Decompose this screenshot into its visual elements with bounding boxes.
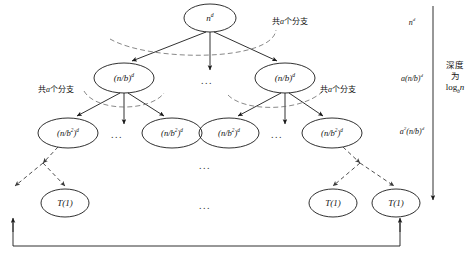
branch-annotation-left: 共a个分支	[38, 83, 74, 94]
edge-l3-1-leafright	[43, 163, 65, 186]
edges-root-to-level2	[132, 32, 277, 70]
ellipsis-level3-right: ...	[271, 129, 283, 140]
node-level3-1	[38, 118, 98, 148]
node-ellipses	[38, 4, 420, 217]
branch-annotation-right: 共a个分支	[320, 83, 356, 94]
branch-curves	[84, 30, 322, 107]
node-root	[184, 4, 236, 32]
edge-l2right-c1	[238, 93, 281, 116]
edge-l2left-c1	[77, 93, 120, 116]
ellipsis-level2: ...	[201, 75, 213, 86]
ellipsis-middle-lower: ...	[199, 200, 211, 211]
edge-l3-1-leafleft	[15, 163, 43, 186]
edge-l2right-c3	[289, 93, 323, 116]
depth-line-1: 深度	[446, 60, 465, 71]
node-level3-3	[199, 118, 259, 148]
ellipsis-level3-left: ...	[111, 129, 123, 140]
edge-l3-4-leafleft	[333, 163, 360, 186]
edge-root-right	[214, 32, 277, 61]
level-cost-1: a(n/b)d	[401, 74, 423, 83]
depth-annotation: 深度 为 logbn	[446, 60, 465, 93]
depth-math-label: logbn	[446, 82, 465, 93]
edge-l2left-c3	[128, 93, 164, 116]
edge-l3-1-down	[43, 147, 58, 163]
level-cost-2: a2(n/b)d	[400, 127, 425, 136]
node-level3-2	[142, 118, 202, 148]
edge-l3-4-leafright	[360, 163, 394, 186]
recursion-tree-figure: nd (n/b)d (n/b)d (n/b2)d (n/b2)d (n/b2)d…	[0, 0, 472, 254]
branch-curve-root	[110, 30, 276, 55]
node-leaf-3	[372, 189, 420, 217]
bottom-bracket	[13, 218, 400, 246]
node-leaf-2	[309, 189, 357, 217]
node-level2-right	[255, 63, 315, 93]
branch-curve-right	[228, 92, 322, 107]
node-level2-left	[94, 63, 154, 93]
level-cost-0: nd	[409, 18, 415, 27]
edge-l3-4-down	[343, 147, 360, 163]
depth-line-2: 为	[446, 71, 465, 82]
node-leaf-1	[41, 189, 89, 217]
branch-annotation-root: 共a个分支	[272, 15, 308, 26]
edge-root-left	[132, 32, 206, 61]
edges-level2-to-level3	[77, 93, 323, 124]
bottom-bracket-path	[13, 222, 400, 246]
node-level3-4	[302, 118, 362, 148]
ellipsis-middle-upper: ...	[199, 160, 211, 171]
